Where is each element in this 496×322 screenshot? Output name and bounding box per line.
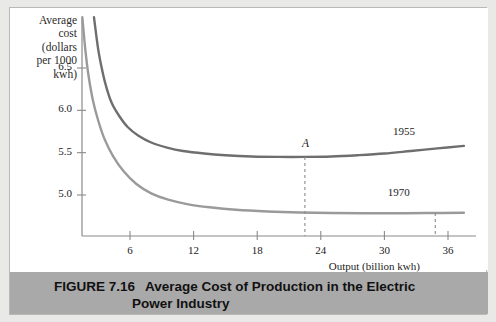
figure-frame: Average cost (dollars per 1000 kwh) 5.05… xyxy=(9,7,487,315)
annotations-group xyxy=(305,157,435,236)
x-axis-title: Output (billion kwh) xyxy=(329,260,420,272)
chart-plot-area: Average cost (dollars per 1000 kwh) 5.05… xyxy=(10,8,488,270)
x-tick-label-12: 12 xyxy=(179,244,209,256)
figure-caption-band: FIGURE 7.16Average Cost of Production in… xyxy=(10,272,488,314)
x-tick-label-36: 36 xyxy=(433,244,463,256)
y-tick-label-5.5: 5.5 xyxy=(46,145,72,157)
axes-group xyxy=(77,18,476,240)
figure-number: FIGURE 7.16 xyxy=(54,279,135,294)
x-tick-label-24: 24 xyxy=(306,244,336,256)
figure-caption-line-2: Power Industry xyxy=(132,295,464,312)
x-tick-label-18: 18 xyxy=(242,244,272,256)
curves-group xyxy=(82,17,464,213)
x-tick-label-30: 30 xyxy=(369,244,399,256)
annotation-label-a: A xyxy=(302,137,309,149)
figure-caption-line-1: Average Cost of Production in the Electr… xyxy=(145,279,415,294)
curve-1970 xyxy=(82,17,464,213)
y-tick-label-6.0: 6.0 xyxy=(46,102,72,114)
y-tick-label-5.0: 5.0 xyxy=(46,187,72,199)
y-tick-label-6.5: 6.5 xyxy=(46,60,72,72)
series-label-1955: 1955 xyxy=(393,125,415,137)
figure-caption: FIGURE 7.16Average Cost of Production in… xyxy=(54,278,464,312)
series-label-1970: 1970 xyxy=(388,186,410,198)
chart-svg xyxy=(10,8,488,270)
x-tick-label-6: 6 xyxy=(115,244,145,256)
